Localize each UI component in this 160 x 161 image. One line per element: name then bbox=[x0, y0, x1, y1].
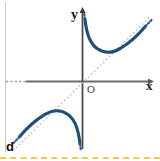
x-axis-label: x bbox=[146, 79, 153, 92]
y-axis-label: y bbox=[71, 8, 78, 22]
origin-label: O bbox=[87, 84, 95, 95]
graph-canvas bbox=[0, 0, 160, 161]
curve-lower-left-tail bbox=[14, 137, 20, 143]
curve-branch-upper-right bbox=[85, 19, 146, 52]
bottom-accent-rule bbox=[0, 157, 160, 159]
graph-figure: y x O d bbox=[0, 0, 160, 161]
curve-upper-right-asymptotic-tail bbox=[84, 12, 85, 19]
curve-lower-left-asymptotic-tail bbox=[80, 144, 81, 151]
part-label: d bbox=[6, 140, 14, 153]
